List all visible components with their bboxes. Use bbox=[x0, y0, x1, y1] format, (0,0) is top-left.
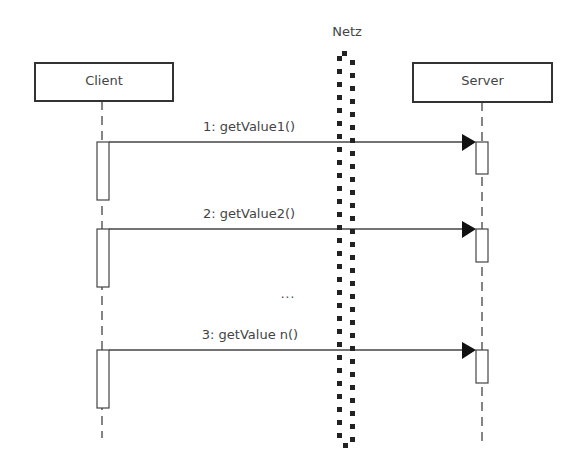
message-arrow-1 bbox=[109, 134, 476, 151]
arrowhead-icon bbox=[462, 134, 476, 151]
arrowhead-icon bbox=[462, 221, 476, 238]
message-arrow-3 bbox=[109, 342, 476, 359]
participant-server: Server bbox=[412, 62, 553, 103]
message-label-2: 2: getValue2() bbox=[203, 206, 295, 221]
network-boundary-label: Netz bbox=[332, 24, 362, 39]
message-label-3: 3: getValue n() bbox=[202, 327, 298, 342]
client-activation-2 bbox=[97, 229, 109, 287]
server-activation-1 bbox=[476, 142, 488, 174]
participant-server-label: Server bbox=[461, 73, 504, 88]
message-label-1: 1: getValue1() bbox=[203, 119, 295, 134]
participant-client-label: Client bbox=[85, 73, 123, 88]
client-activation-3 bbox=[97, 350, 109, 408]
participant-client: Client bbox=[34, 62, 174, 102]
message-arrow-2 bbox=[109, 221, 476, 238]
network-boundary bbox=[337, 51, 355, 448]
ellipsis-continuation: ... bbox=[281, 287, 295, 301]
arrowhead-icon bbox=[462, 342, 476, 359]
client-activation-1 bbox=[97, 142, 109, 200]
server-activation-2 bbox=[476, 229, 488, 262]
server-activation-3 bbox=[476, 350, 488, 383]
